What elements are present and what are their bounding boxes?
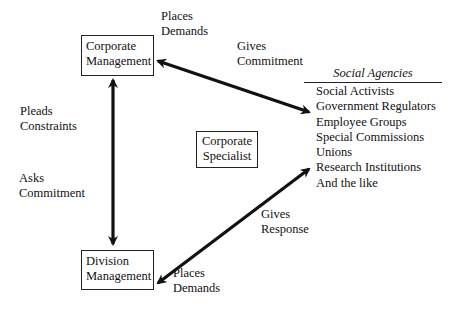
- label-line: Demands: [161, 24, 208, 39]
- label-line: Gives: [261, 207, 309, 222]
- label-line: Places: [161, 9, 208, 24]
- social-agencies-title: Social Agencies: [304, 66, 442, 83]
- node-corporate-management-line2: Management: [86, 54, 149, 69]
- node-division-management-line2: Management: [86, 269, 149, 284]
- agency-item: Research Institutions: [316, 160, 436, 175]
- node-division-management-line1: Division: [86, 254, 149, 269]
- node-corporate-specialist: Corporate Specialist: [196, 131, 258, 168]
- agency-item: Special Commissions: [316, 130, 436, 145]
- agency-item: Employee Groups: [316, 115, 436, 130]
- label-line: Asks: [19, 171, 85, 186]
- node-division-management: Division Management: [81, 250, 154, 290]
- node-corporate-management: Corporate Management: [81, 35, 154, 76]
- label-line: Pleads: [20, 104, 77, 119]
- label-line: Gives: [237, 39, 303, 54]
- label-asks-commitment: Asks Commitment: [19, 171, 85, 201]
- label-line: Places: [173, 266, 220, 281]
- agency-item: Government Regulators: [316, 99, 436, 114]
- label-line: Constraints: [20, 119, 77, 134]
- agency-item: Unions: [316, 145, 436, 160]
- node-corporate-specialist-line2: Specialist: [200, 149, 254, 164]
- label-gives-response: Gives Response: [261, 207, 309, 237]
- label-places-demands-bottom: Places Demands: [173, 266, 220, 296]
- agency-item: Social Activists: [316, 84, 436, 99]
- node-corporate-specialist-line1: Corporate: [200, 134, 254, 149]
- label-pleads-constraints: Pleads Constraints: [20, 104, 77, 134]
- label-line: Response: [261, 222, 309, 237]
- social-agencies-list: Social Activists Government Regulators E…: [316, 84, 436, 191]
- label-line: Commitment: [19, 186, 85, 201]
- label-gives-commitment: Gives Commitment: [237, 39, 303, 69]
- agency-item: And the like: [316, 176, 436, 191]
- label-line: Commitment: [237, 54, 303, 69]
- node-corporate-management-line1: Corporate: [86, 39, 149, 54]
- label-line: Demands: [173, 281, 220, 296]
- label-places-demands-top: Places Demands: [161, 9, 208, 39]
